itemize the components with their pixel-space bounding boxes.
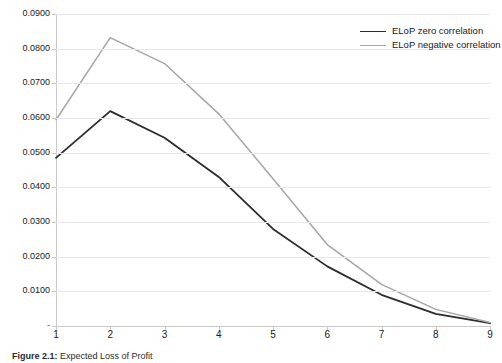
gridline xyxy=(56,14,490,15)
legend-item: ELoP negative correlation xyxy=(360,38,501,52)
figure-caption: Figure 2.1: Expected Loss of Profit xyxy=(12,352,153,362)
y-axis-tick-label: 0.0300 xyxy=(0,217,50,226)
y-axis-tick-label: 0.0200 xyxy=(0,252,50,261)
gridline xyxy=(56,222,490,223)
y-axis-tick-label: 0.0700 xyxy=(0,78,50,87)
caption-text: Expected Loss of Profit xyxy=(60,351,153,361)
y-axis-tick-label: 0.0800 xyxy=(0,44,50,53)
x-axis-tick-label: 5 xyxy=(261,330,285,340)
gridline xyxy=(56,118,490,119)
x-axis-tick-label: 9 xyxy=(478,330,502,340)
chart-legend: ELoP zero correlationELoP negative corre… xyxy=(360,24,501,52)
y-axis-tick-label: - xyxy=(0,321,50,330)
x-axis-tick-label: 7 xyxy=(370,330,394,340)
x-axis-tick-label: 1 xyxy=(44,330,68,340)
x-axis-tick-label: 3 xyxy=(153,330,177,340)
y-axis-tick-label: 0.0400 xyxy=(0,182,50,191)
y-axis-tick-label: 0.0100 xyxy=(0,286,50,295)
legend-item-label: ELoP zero correlation xyxy=(392,26,483,36)
y-axis-tick-label: 0.0500 xyxy=(0,148,50,157)
gridline xyxy=(56,257,490,258)
axis-baseline xyxy=(56,326,490,327)
x-axis-tick-label: 4 xyxy=(207,330,231,340)
caption-label: Figure 2.1: xyxy=(12,351,58,361)
x-axis-tick-label: 2 xyxy=(98,330,122,340)
y-axis-tick-label: 0.0900 xyxy=(0,9,50,18)
legend-line-swatch xyxy=(360,45,386,46)
y-axis-tick-label: 0.0600 xyxy=(0,113,50,122)
legend-line-swatch xyxy=(360,31,386,32)
gridline xyxy=(56,187,490,188)
x-axis-tick-label: 6 xyxy=(315,330,339,340)
series-line xyxy=(56,38,490,323)
x-axis-tick-label: 8 xyxy=(424,330,448,340)
plot-area xyxy=(56,14,490,326)
gridline xyxy=(56,291,490,292)
data-series-layer xyxy=(56,14,490,326)
x-axis-tick-mark xyxy=(490,326,491,330)
legend-item: ELoP zero correlation xyxy=(360,24,501,38)
legend-item-label: ELoP negative correlation xyxy=(392,40,501,50)
gridline xyxy=(56,83,490,84)
gridline xyxy=(56,153,490,154)
